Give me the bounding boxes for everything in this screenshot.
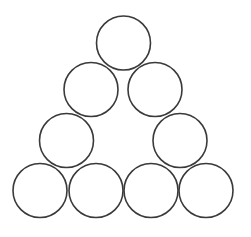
circle-row3-1 (40, 114, 94, 168)
circle-row3-2 (153, 114, 207, 168)
circle-row1-1 (97, 16, 151, 70)
circle-row2-2 (128, 63, 182, 117)
circle-row4-2 (69, 164, 123, 218)
circle-row4-1 (13, 164, 67, 218)
circle-row2-1 (64, 63, 118, 117)
circle-row4-4 (179, 164, 233, 218)
circle-triangle-diagram (0, 0, 251, 237)
circle-row4-3 (124, 164, 178, 218)
circles-group (13, 16, 233, 218)
